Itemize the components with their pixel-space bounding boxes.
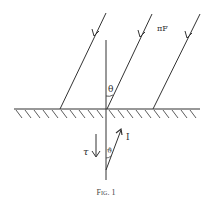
intensity-label: I (126, 132, 130, 142)
incident-ray-2 (107, 14, 152, 109)
incident-flux-label: πF (157, 24, 168, 33)
figure-caption: Fig. 1 (97, 188, 116, 197)
direction-angle-label: ϑ (107, 147, 112, 155)
figure-diagram: θ τ I ϑ πF Fig. 1 (0, 0, 212, 203)
zenith-angle-label: θ (108, 84, 113, 94)
zenith-angle-arc (106, 95, 113, 96)
optical-depth-label: τ (83, 146, 89, 157)
incident-ray-1 (60, 13, 106, 109)
